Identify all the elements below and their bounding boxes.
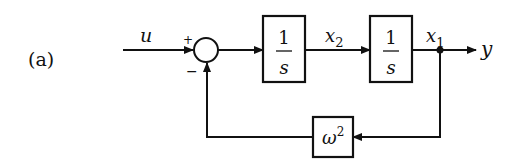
block-diagram: (a) u + − 1 s x2 1 s x1 y ω2 [0, 0, 527, 168]
integrator2-denominator: s [386, 57, 395, 78]
minus-sign: − [186, 63, 198, 79]
integrator2-numerator: 1 [385, 27, 396, 48]
integrator1-numerator: 1 [278, 27, 289, 48]
plus-sign: + [183, 33, 193, 47]
x2-label: x2 [325, 25, 343, 50]
panel-label: (a) [28, 48, 54, 70]
integrator1-denominator: s [279, 57, 288, 78]
x1-label: x1 [426, 25, 444, 50]
input-label: u [140, 24, 152, 46]
output-label: y [480, 37, 493, 61]
summing-junction [194, 38, 218, 62]
